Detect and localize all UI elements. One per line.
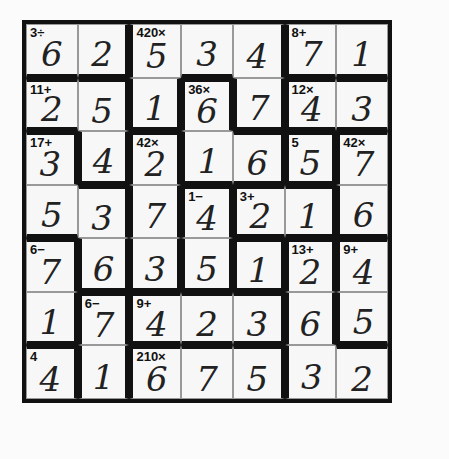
grid-cell[interactable]: 5 [78,78,130,132]
cell-value: 6 [234,145,281,181]
cell-value: 1 [27,303,74,342]
grid-cell[interactable]: 1 [285,185,337,239]
cell-value: 5 [340,303,387,342]
grid-cell[interactable]: 6 [285,292,337,346]
grid-cell[interactable]: 9+4 [129,292,181,346]
cell-value: 1 [185,142,232,181]
cell-value: 3 [79,199,126,238]
cell-value: 1 [82,356,126,398]
grid-cell[interactable]: 1 [78,345,130,399]
grid-cell[interactable]: 5 [233,345,285,399]
grid-cell[interactable]: 7 [129,185,181,239]
cell-value: 4 [82,142,126,181]
grid-cell[interactable]: 3 [233,292,285,346]
cell-value: 6 [340,196,387,235]
cell-value: 3 [337,92,387,128]
kenken-grid: 3÷62420×5348+7111+25136×6712×4317+3442×2… [22,20,392,403]
cell-value: 7 [289,35,336,74]
cell-value: 4 [234,35,281,77]
grid-cell[interactable]: 5 [181,238,233,292]
grid-cell[interactable]: 7 [233,78,285,132]
cell-value: 2 [133,145,177,184]
cell-value: 2 [79,35,126,74]
cell-value: 4 [289,92,336,128]
cell-value: 6 [289,303,333,345]
cell-value: 5 [289,145,333,181]
grid-cell[interactable]: 3 [336,78,388,132]
cell-value: 1 [237,252,281,288]
cell-value: 2 [337,359,387,398]
cell-value: 6 [27,35,77,74]
grid-cell[interactable]: 42×7 [336,131,388,185]
cell-value: 4 [185,199,229,238]
cell-value: 6 [82,249,126,288]
cell-value: 7 [237,89,281,128]
cell-value: 2 [289,252,333,291]
cell-value: 5 [185,249,229,288]
grid-cell[interactable]: 8+7 [285,24,337,78]
grid-cell[interactable]: 42×2 [129,131,181,185]
cell-value: 2 [27,92,77,128]
cell-value: 3 [182,35,232,74]
cell-value: 4 [133,306,180,342]
cell-value: 3 [234,306,281,342]
grid-cell[interactable]: 5 [336,292,388,346]
grid-cell[interactable]: 1 [181,131,233,185]
grid-cell[interactable]: 13+2 [285,238,337,292]
grid-cell[interactable]: 6−7 [78,292,130,346]
grid-cell[interactable]: 5 [26,185,78,239]
cell-value: 5 [133,35,180,77]
grid-cell[interactable]: 1 [26,292,78,346]
cell-value: 4 [27,359,74,398]
grid-cell[interactable]: 36×6 [181,78,233,132]
cell-value: 2 [182,306,232,342]
grid-cell[interactable]: 3÷6 [26,24,78,78]
grid-cell[interactable]: 6 [336,185,388,239]
grid-cell[interactable]: 1 [233,238,285,292]
grid-cell[interactable]: 7 [181,345,233,399]
grid-cell[interactable]: 9+4 [336,238,388,292]
grid-cell[interactable]: 6 [233,131,285,185]
cell-value: 7 [133,196,177,238]
cell-value: 1 [337,35,387,74]
cell-value: 5 [27,196,77,235]
grid-cell[interactable]: 11+2 [26,78,78,132]
cell-value: 5 [234,359,281,398]
cell-value: 6 [185,92,229,131]
cell-value: 3 [27,145,74,184]
cell-value: 4 [340,252,387,291]
grid-cell[interactable]: 420×5 [129,24,181,78]
grid-cell[interactable]: 210×6 [129,345,181,399]
grid-cell[interactable]: 1 [336,24,388,78]
cell-value: 7 [182,359,232,398]
grid-cell[interactable]: 17+3 [26,131,78,185]
grid-cell[interactable]: 6−7 [26,238,78,292]
cell-value: 2 [237,199,284,235]
grid-cell[interactable]: 2 [181,292,233,346]
grid-cell[interactable]: 3 [129,238,181,292]
grid-cell[interactable]: 2 [336,345,388,399]
cell-value: 5 [79,92,126,131]
grid-cell[interactable]: 55 [285,131,337,185]
grid-cell[interactable]: 12×4 [285,78,337,132]
cell-value: 3 [289,356,336,398]
grid-cell[interactable]: 3 [285,345,337,399]
grid-cell[interactable]: 4 [78,131,130,185]
cell-value: 6 [133,359,180,398]
grid-cell[interactable]: 3 [181,24,233,78]
cell-value: 7 [27,252,74,291]
grid-cell[interactable]: 1 [129,78,181,132]
grid-cell[interactable]: 44 [26,345,78,399]
cell-value: 7 [340,145,387,184]
cell-value: 1 [286,199,333,235]
grid-cell[interactable]: 3+2 [233,185,285,239]
grid-cell[interactable]: 2 [78,24,130,78]
grid-cell[interactable]: 4 [233,24,285,78]
cell-value: 1 [133,89,177,128]
grid-cell[interactable]: 6 [78,238,130,292]
grid-cell[interactable]: 3 [78,185,130,239]
grid-cell[interactable]: 1−4 [181,185,233,239]
cell-value: 3 [133,249,177,288]
cell-value: 7 [82,306,126,345]
